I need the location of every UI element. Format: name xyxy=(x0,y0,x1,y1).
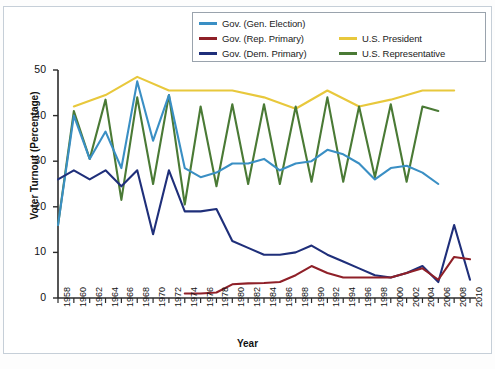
y-tick-label: 0 xyxy=(18,291,46,303)
x-tick-label: 1976 xyxy=(205,287,215,307)
x-tick-label: 1982 xyxy=(252,287,262,307)
x-tick-label: 1972 xyxy=(173,287,183,307)
legend-label: Gov. (Dem. Primary) xyxy=(222,48,306,59)
x-tick-label: 2000 xyxy=(395,287,405,307)
x-tick-label: 1958 xyxy=(62,287,72,307)
legend-label: Gov. (Gen. Election) xyxy=(222,18,305,29)
x-tick-label: 1992 xyxy=(331,287,341,307)
chart-legend: Gov. (Gen. Election)Gov. (Rep. Primary)G… xyxy=(192,12,486,62)
legend-item: Gov. (Gen. Election) xyxy=(199,18,339,29)
y-tick-label: 40 xyxy=(18,109,46,121)
legend-item: U.S. President xyxy=(339,33,489,44)
x-tick-label: 1984 xyxy=(268,287,278,307)
legend-color-swatch xyxy=(339,37,357,40)
legend-color-swatch xyxy=(199,37,217,40)
legend-label: U.S. President xyxy=(362,33,422,44)
legend-color-swatch xyxy=(199,52,217,55)
series-line xyxy=(58,95,438,225)
x-tick-label: 1978 xyxy=(220,287,230,307)
legend-item: Gov. (Rep. Primary) xyxy=(199,33,339,44)
y-tick-label: 10 xyxy=(18,245,46,257)
x-tick-label: 1964 xyxy=(110,287,120,307)
x-tick-label: 2004 xyxy=(426,287,436,307)
y-tick-label: 30 xyxy=(18,154,46,166)
chart-figure: Voter Turnout (Percentage) Year 01020304… xyxy=(0,0,495,369)
y-tick-label: 50 xyxy=(18,63,46,75)
x-tick-label: 1990 xyxy=(316,287,326,307)
x-tick-label: 2002 xyxy=(411,287,421,307)
x-tick-label: 1962 xyxy=(94,287,104,307)
x-tick-label: 2006 xyxy=(442,287,452,307)
x-axis-label: Year xyxy=(0,338,495,349)
legend-label: Gov. (Rep. Primary) xyxy=(222,33,304,44)
series-line xyxy=(58,81,438,225)
legend-item: U.S. Representative xyxy=(339,48,489,59)
x-tick-label: 1998 xyxy=(379,287,389,307)
x-tick-label: 1994 xyxy=(347,287,357,307)
legend-color-swatch xyxy=(339,52,357,55)
x-tick-label: 1960 xyxy=(78,287,88,307)
x-tick-label: 1966 xyxy=(125,287,135,307)
x-tick-label: 1970 xyxy=(157,287,167,307)
x-tick-label: 1986 xyxy=(284,287,294,307)
legend-item: Gov. (Dem. Primary) xyxy=(199,48,339,59)
x-tick-label: 1988 xyxy=(300,287,310,307)
legend-color-swatch xyxy=(199,22,217,25)
x-tick-label: 1996 xyxy=(363,287,373,307)
x-tick-label: 2010 xyxy=(474,287,484,307)
x-tick-label: 2008 xyxy=(458,287,468,307)
x-tick-label: 1974 xyxy=(189,287,199,307)
x-tick-label: 1968 xyxy=(141,287,151,307)
y-tick-label: 20 xyxy=(18,200,46,212)
legend-label: U.S. Representative xyxy=(362,48,445,59)
x-tick-label: 1980 xyxy=(236,287,246,307)
